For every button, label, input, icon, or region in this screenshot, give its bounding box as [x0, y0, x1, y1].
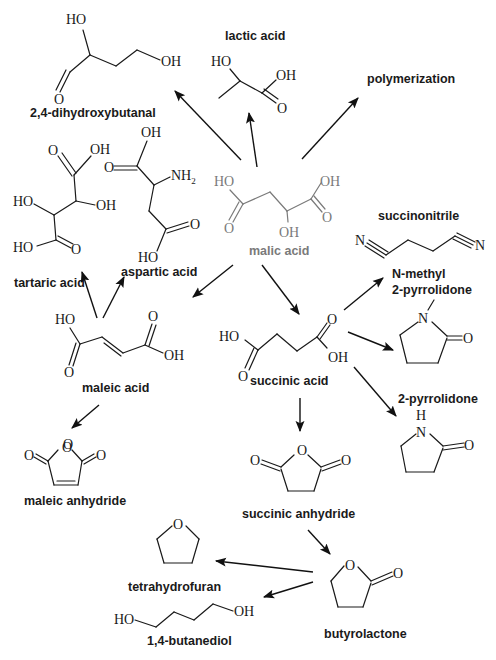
arrow-maleic-to-tartaric: [82, 272, 97, 318]
atom-oh: OH: [279, 225, 299, 240]
label-maleic-anhydride: maleic anhydride: [24, 494, 126, 508]
atom-o: O: [224, 221, 234, 236]
atom-o: O: [238, 369, 248, 384]
atom-o: O: [250, 453, 260, 468]
atom-o-ring: O: [297, 443, 307, 458]
atom-oh: OH: [96, 198, 116, 213]
atom-n: N: [475, 238, 485, 253]
atom-ho: HO: [214, 174, 234, 189]
label-succinonitrile: succinonitrile: [378, 209, 459, 223]
arrow-butyrolactone-to-thf: [216, 561, 313, 572]
atom-ho: HO: [211, 54, 231, 69]
atom-o: O: [71, 242, 81, 257]
compound-lactic-acid: lactic acid HO OH O: [211, 29, 296, 116]
label-succinic-anhydride: succinic anhydride: [242, 507, 355, 521]
arrow-malic-to-polymerization: [302, 98, 358, 159]
atom-ho: HO: [13, 194, 33, 209]
arrow-succinic-to-pyrrolidone: [354, 367, 396, 416]
compound-butanediol: HO OH 1,4-butanediol: [114, 604, 254, 648]
atom-oh: OH: [320, 174, 340, 189]
atom-o: O: [463, 331, 473, 346]
arrow-malic-to-dihydroxybutanal: [175, 91, 241, 160]
arrow-succinic-to-nmp: [348, 332, 393, 350]
atom-o: O: [96, 448, 106, 463]
atom-o: O: [327, 312, 337, 327]
atom-o: O: [48, 143, 58, 158]
compound-butyrolactone: O O butyrolactone: [324, 558, 407, 641]
reaction-pathway-diagram: HO OH O 2,4-dihydroxybutanal lactic acid…: [0, 0, 496, 660]
atom-o: O: [24, 448, 34, 463]
label-nmp-line1: N-methyl: [392, 267, 445, 281]
atom-o: O: [148, 309, 158, 324]
compound-dihydroxybutanal: HO OH O 2,4-dihydroxybutanal: [30, 12, 181, 120]
atom-oh: OH: [161, 54, 181, 69]
label-polymerization: polymerization: [367, 72, 455, 86]
compound-malic-acid: HO O OH OH O malic acid: [214, 174, 340, 258]
label-nmp-line2: 2-pyrrolidone: [392, 283, 472, 297]
label-maleic-acid: maleic acid: [82, 381, 149, 395]
compound-tartaric-acid: O OH OH HO HO O: [13, 142, 116, 257]
atom-ho: HO: [13, 240, 33, 255]
arrow-malic-to-maleic: [193, 265, 233, 297]
arrow-succinic-to-succinonitrile: [344, 278, 383, 310]
atom-oh: OH: [234, 604, 254, 619]
atom-oh: OH: [90, 142, 110, 157]
atom-o-ring: O: [345, 558, 355, 573]
atom-o: O: [464, 438, 474, 453]
arrow-maleic-to-aspartic: [103, 277, 124, 318]
atom-o: O: [54, 92, 64, 107]
atom-ho: HO: [114, 612, 134, 627]
label-butyrolactone: butyrolactone: [324, 627, 407, 641]
compound-n-methyl-pyrrolidone: N-methyl 2-pyrrolidone N O: [392, 267, 473, 363]
label-tetrahydrofuran: tetrahydrofuran: [128, 580, 221, 594]
label-malic-acid: malic acid: [249, 244, 309, 258]
label-dihydroxybutanal: 2,4-dihydroxybutanal: [30, 106, 156, 120]
arrow-anhydride-to-butyrolactone: [308, 530, 330, 554]
atom-oh: OH: [328, 350, 348, 365]
compound-succinic-anhydride: O O O succinic anhydride: [242, 443, 355, 521]
arrow-malic-to-lactic: [249, 113, 257, 167]
compound-2-pyrrolidone: 2-pyrrolidone H N O: [398, 392, 478, 472]
arrow-malic-to-succinic: [262, 265, 299, 314]
arrow-butyrolactone-to-butanediol: [264, 582, 313, 597]
atom-ho: HO: [66, 12, 86, 27]
atom-n: N: [416, 425, 426, 440]
atom-oh: OH: [141, 125, 161, 140]
atom-o: O: [64, 365, 74, 380]
atom-ho: HO: [219, 329, 239, 344]
atom-nh2: NH2: [171, 168, 196, 186]
atom-o: O: [190, 217, 200, 232]
atom-h: H: [416, 408, 426, 423]
atom-o: O: [393, 566, 403, 581]
atom-o: O: [341, 453, 351, 468]
compound-maleic-anhydride: O O O O maleic anhydride: [24, 437, 126, 508]
label-2-pyrrolidone: 2-pyrrolidone: [398, 392, 478, 406]
atom-n: N: [418, 311, 428, 326]
compound-maleic-acid: HO O O OH maleic acid: [55, 309, 184, 395]
compound-succinonitrile: succinonitrile N N: [355, 209, 485, 258]
compound-aspartic-acid: OH O NH2 O HO aspartic acid: [104, 125, 200, 279]
atom-oh: OH: [276, 68, 296, 83]
compound-succinic-acid: HO O O OH succinic acid: [219, 312, 348, 388]
label-lactic-acid: lactic acid: [225, 29, 285, 43]
atom-o: O: [322, 210, 332, 225]
atom-o: O: [277, 101, 287, 116]
atom-ho: HO: [138, 250, 158, 265]
label-aspartic-acid: aspartic acid: [121, 265, 197, 279]
atom-o: O: [173, 517, 183, 532]
label-butanediol: 1,4-butanediol: [147, 634, 232, 648]
compound-tetrahydrofuran: O tetrahydrofuran: [128, 517, 221, 594]
atom-oh: OH: [164, 348, 184, 363]
reaction-arrows: [72, 91, 396, 597]
atom-n: N: [355, 233, 365, 248]
label-tartaric-acid: tartaric acid: [14, 276, 85, 290]
atom-ho: HO: [55, 312, 75, 327]
atom-o: O: [104, 160, 114, 175]
label-succinic-acid: succinic acid: [250, 374, 329, 388]
arrow-maleic-to-anhydride: [72, 405, 99, 428]
